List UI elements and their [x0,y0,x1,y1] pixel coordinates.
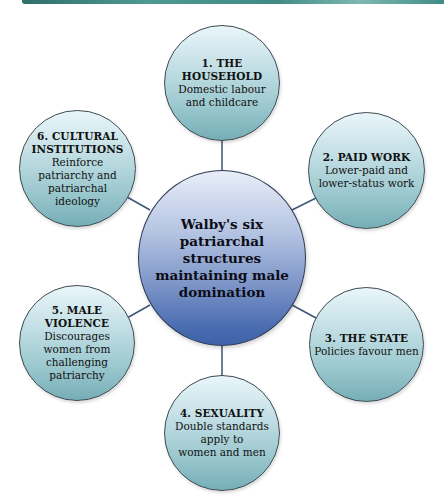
node-description: Lower-paid and [325,164,408,177]
node-description: challenging [46,356,108,369]
node-title: 5. MALE [52,304,102,317]
node-description: Double standards [175,420,269,433]
connector-male-violence [127,305,150,318]
node-description: and childcare [186,96,259,109]
node-description: apply to [201,433,244,446]
node-title: 1. THE [202,57,243,70]
node-description: Discourages [44,330,110,343]
node-description: women from [44,343,111,356]
node-sexuality: 4. SEXUALITY Double standards apply to w… [164,375,280,491]
connector-state [292,305,316,318]
central-hub: Walby's six patriarchal structures maint… [138,170,306,346]
central-hub-label: Walby's six patriarchal structures maint… [139,216,305,301]
node-paid-work: 2. PAID WORK Lower-paid and lower-status… [308,112,425,229]
node-male-violence: 5. MALE VIOLENCE Discourages women from … [19,285,135,401]
node-title: 2. PAID WORK [323,151,411,164]
node-title: VIOLENCE [45,317,109,330]
node-title: INSTITUTIONS [31,143,123,156]
node-title: HOUSEHOLD [182,70,262,83]
node-description: patriarchy [49,369,104,382]
node-title: 4. SEXUALITY [180,407,264,420]
node-description: patriarchal [48,182,107,195]
node-description: lower-status work [319,177,415,190]
node-the-state: 3. THE STATE Policies favour men [309,287,424,402]
node-description: women and men [178,446,266,459]
connector-cultural-institutions [127,197,150,210]
node-description: Domestic labour [178,83,266,96]
connector-paid-work [292,198,316,210]
node-description: ideology [55,195,100,208]
node-title: 3. THE STATE [325,332,408,345]
node-cultural-institutions: 6. CULTURAL INSTITUTIONS Reinforce patri… [19,110,136,227]
node-description: patriarchy and [38,169,117,182]
node-household: 1. THE HOUSEHOLD Domestic labour and chi… [164,25,280,141]
node-title: 6. CULTURAL [37,130,118,143]
node-description: Reinforce [52,156,104,169]
node-description: Policies favour men [314,345,418,358]
